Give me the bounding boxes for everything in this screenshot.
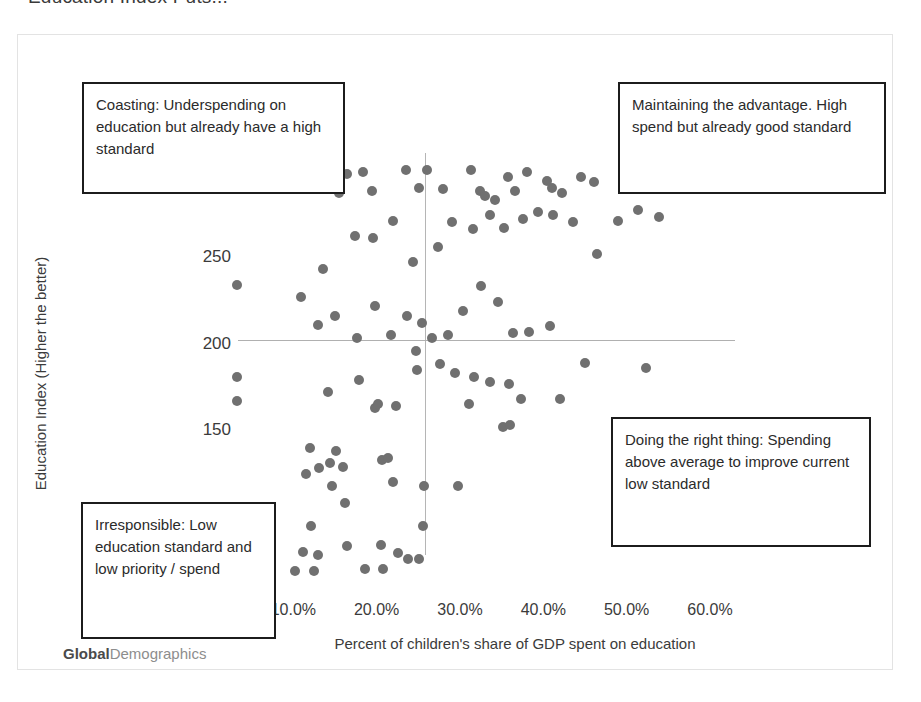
data-point <box>641 363 651 373</box>
data-point <box>508 328 518 338</box>
data-point <box>633 205 643 215</box>
data-point <box>518 214 528 224</box>
data-point <box>305 443 315 453</box>
watermark: GlobalDemographics <box>63 645 206 662</box>
data-point <box>370 301 380 311</box>
data-point <box>378 564 388 574</box>
data-point <box>338 462 348 472</box>
y-axis-tick-label: 200 <box>173 334 231 354</box>
data-point <box>493 297 503 307</box>
data-point <box>505 420 515 430</box>
data-point <box>654 212 664 222</box>
data-point <box>232 280 242 290</box>
data-point <box>391 401 401 411</box>
callout-irresponsible: Irresponsible: Low education standard an… <box>81 502 276 639</box>
data-point <box>503 172 513 182</box>
data-point <box>547 183 557 193</box>
data-point <box>450 368 460 378</box>
x-axis-tick-label: 60.0% <box>687 601 732 619</box>
data-point <box>485 377 495 387</box>
callout-doing-the-right-thing: Doing the right thing: Spending above av… <box>611 417 871 547</box>
data-point <box>568 217 578 227</box>
data-point <box>306 521 316 531</box>
data-point <box>368 233 378 243</box>
data-point <box>524 327 534 337</box>
slide-title: Education Index Puts... <box>28 0 668 10</box>
data-point <box>433 242 443 252</box>
data-point <box>313 320 323 330</box>
y-axis-title: Education Index (Higher the better) <box>32 204 49 544</box>
data-point <box>318 264 328 274</box>
data-point <box>504 379 514 389</box>
data-point <box>352 333 362 343</box>
data-point <box>376 540 386 550</box>
data-point <box>419 481 429 491</box>
data-point <box>510 186 520 196</box>
data-point <box>411 346 421 356</box>
y-axis-tick-label: 150 <box>173 420 231 440</box>
data-point <box>327 481 337 491</box>
data-point <box>557 188 567 198</box>
data-point <box>499 223 509 233</box>
data-point <box>589 177 599 187</box>
data-point <box>232 396 242 406</box>
data-point <box>403 554 413 564</box>
callout-maintaining: Maintaining the advantage. High spend bu… <box>618 82 886 194</box>
data-point <box>480 191 490 201</box>
data-point <box>435 359 445 369</box>
data-point <box>414 183 424 193</box>
data-point <box>354 375 364 385</box>
data-point <box>592 249 602 259</box>
data-point <box>393 548 403 558</box>
data-point <box>325 458 335 468</box>
data-point <box>388 216 398 226</box>
data-point <box>408 257 418 267</box>
x-axis-tick-label: 50.0% <box>604 601 649 619</box>
data-point <box>443 330 453 340</box>
data-point <box>522 167 532 177</box>
data-point <box>417 318 427 328</box>
data-point <box>358 167 368 177</box>
data-point <box>373 399 383 409</box>
data-point <box>453 481 463 491</box>
data-point <box>548 210 558 220</box>
data-point <box>340 498 350 508</box>
data-point <box>458 306 468 316</box>
watermark-bold: Global <box>63 645 110 662</box>
x-axis-tick-label: 20.0% <box>354 601 399 619</box>
data-point <box>383 453 393 463</box>
data-point <box>422 165 432 175</box>
data-point <box>342 541 352 551</box>
data-point <box>298 547 308 557</box>
data-point <box>412 365 422 375</box>
data-point <box>485 210 495 220</box>
watermark-light: Demographics <box>110 645 207 662</box>
data-point <box>466 165 476 175</box>
data-point <box>309 566 319 576</box>
data-point <box>468 224 478 234</box>
data-point <box>367 186 377 196</box>
data-point <box>476 281 486 291</box>
x-axis-title: Percent of children's share of GDP spent… <box>235 635 795 652</box>
data-point <box>314 463 324 473</box>
data-point <box>331 446 341 456</box>
data-point <box>427 333 437 343</box>
data-point <box>469 372 479 382</box>
data-point <box>533 207 543 217</box>
data-point <box>290 566 300 576</box>
data-point <box>323 387 333 397</box>
data-point <box>401 165 411 175</box>
data-point <box>438 184 448 194</box>
data-point <box>350 231 360 241</box>
data-point <box>516 394 526 404</box>
data-point <box>232 372 242 382</box>
data-point <box>388 477 398 487</box>
data-point <box>447 217 457 227</box>
data-point <box>386 330 396 340</box>
data-point <box>414 554 424 564</box>
x-axis-tick-labels: 10.0%20.0%30.0%40.0%50.0%60.0% <box>235 601 795 625</box>
data-point <box>330 311 340 321</box>
data-point <box>490 195 500 205</box>
x-axis-tick-label: 10.0% <box>271 601 316 619</box>
y-axis-tick-label: 250 <box>173 247 231 267</box>
